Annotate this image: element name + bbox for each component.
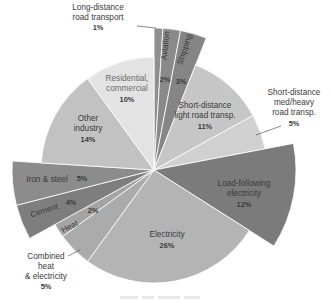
label-other-industry-pct: 14%	[81, 135, 96, 144]
label-iron-steel: Iron & steel 5%	[26, 174, 87, 184]
label-chp-pct: 5%	[41, 282, 52, 291]
leader-line-long-distance	[137, 26, 156, 28]
label-med-heavy-pct: 5%	[289, 119, 300, 128]
label-electricity-pct: 26%	[160, 241, 175, 250]
label-long-distance-road: Long-distance road transport 1%	[72, 3, 156, 32]
label-load-following-line2: electricity	[227, 189, 262, 198]
cropped-caption-fragment	[158, 296, 180, 299]
label-residential-pct: 10%	[120, 95, 135, 104]
label-residential-line2: commercial	[106, 84, 148, 93]
label-heat-pct: 2%	[88, 206, 99, 215]
label-iron-steel-pct: 5%	[77, 174, 88, 183]
label-aviation-pct: 2%	[160, 75, 171, 84]
label-residential-line1: Residential,	[106, 74, 149, 83]
cropped-caption	[120, 296, 210, 304]
cropped-caption-fragment	[184, 296, 200, 299]
label-long-distance-pct: 1%	[93, 23, 104, 32]
label-cement-pct: 4%	[66, 198, 77, 207]
label-light-road-line1: Short-distance	[179, 101, 232, 110]
label-load-following-line1: Load-following	[218, 179, 271, 188]
label-chp-line2: heat	[38, 262, 55, 271]
label-light-road-pct: 11%	[198, 122, 213, 131]
label-med-heavy-line3: road transp.	[272, 108, 316, 117]
cropped-caption-fragment	[142, 296, 154, 299]
label-long-distance-line2: road transport	[73, 13, 125, 22]
label-shipping-pct: 3%	[176, 77, 187, 86]
label-electricity-name: Electricity	[149, 230, 185, 239]
label-other-industry-line1: Other	[78, 114, 99, 123]
label-med-heavy-road: Short-distance med/heavy road transp. 5%	[256, 88, 321, 135]
pie-slices	[12, 28, 296, 283]
pie-chart: Long-distance road transport 1% Aviation…	[0, 0, 331, 304]
label-light-road-line2: light road transp.	[175, 111, 236, 120]
cropped-caption-fragment	[120, 296, 138, 299]
label-chp-line3: & electricity	[25, 272, 68, 281]
label-iron-steel-name: Iron & steel	[26, 175, 68, 184]
label-long-distance-line1: Long-distance	[72, 3, 124, 12]
label-chp: Combined heat & electricity 5%	[25, 250, 80, 291]
label-med-heavy-line2: med/heavy	[274, 98, 315, 107]
label-other-industry-line2: industry	[74, 124, 104, 133]
label-chp-line1: Combined	[27, 252, 65, 261]
label-med-heavy-line1: Short-distance	[268, 88, 321, 97]
label-load-following-pct: 12%	[237, 200, 252, 209]
